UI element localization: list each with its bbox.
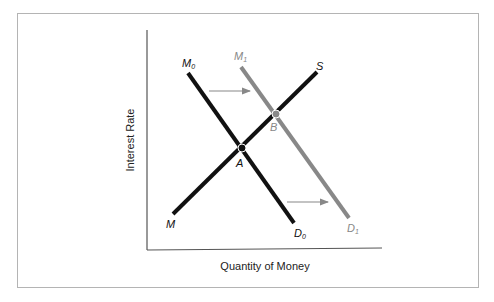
label-a: A [235,157,243,169]
label-m0: M0 [182,57,195,70]
equilibrium-point-b [272,110,280,118]
label-s: S [316,60,324,72]
x-axis-title: Quantity of Money [220,260,310,272]
label-m1: M1 [234,50,247,63]
equilibrium-point-a [238,144,246,152]
label-m: M [166,218,176,230]
y-axis-title: Interest Rate [124,109,136,172]
label-b: B [270,121,277,133]
label-d1: D1 [347,222,359,235]
money-demand-curve-d1 [241,67,349,218]
x-axis [147,248,382,250]
label-d0: D0 [294,227,306,240]
money-market-diagram: M0 M1 S B A M D0 D1 Quantity of Money In… [0,0,494,302]
